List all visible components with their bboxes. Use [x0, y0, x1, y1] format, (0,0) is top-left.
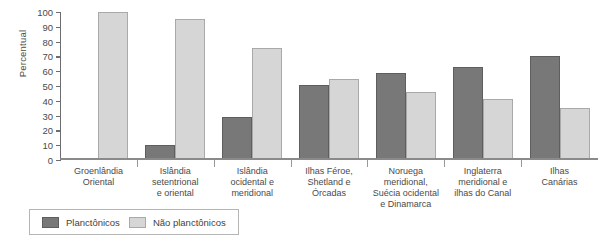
category-label-line: ilhas do Canal — [446, 188, 519, 199]
y-tick-label: 30 — [42, 110, 53, 121]
category-label: Noruegameridional,Suécia ocidentale Dina… — [367, 166, 444, 210]
category-label-line: setentrional — [139, 177, 212, 188]
y-tick-mark — [56, 160, 61, 161]
plot-area: 0102030405060708090100 — [60, 12, 598, 160]
y-tick-label: 20 — [42, 125, 53, 136]
bar-planctonicos — [453, 67, 483, 160]
category-label-line: meridional — [216, 188, 289, 199]
category-label-line: meridional, — [369, 177, 442, 188]
category-label: Islândiasetentrionale oriental — [137, 166, 214, 210]
category-label-line: ocidental e — [216, 177, 289, 188]
category-label-line: Canárias — [523, 177, 596, 188]
y-tick-label: 80 — [42, 36, 53, 47]
category-label-line: Noruega — [369, 166, 442, 177]
category-label-line: Ilhas Féroe, — [293, 166, 366, 177]
category-label: IlhasCanárias — [521, 166, 598, 210]
bar-group — [367, 12, 444, 160]
legend-swatch-icon — [129, 217, 146, 228]
bar-nao-planctonicos — [98, 12, 128, 160]
bar-group — [291, 12, 368, 160]
category-label-line: e oriental — [139, 188, 212, 199]
y-tick-label: 60 — [42, 66, 53, 77]
bar-nao-planctonicos — [252, 48, 282, 160]
legend-item: Não planctônicos — [129, 217, 226, 228]
category-label: Inglaterrameridional eilhas do Canal — [444, 166, 521, 210]
y-tick-label: 40 — [42, 95, 53, 106]
category-label: Ilhas Féroe,Shetland eÓrcadas — [291, 166, 368, 210]
category-label-line: Islândia — [216, 166, 289, 177]
legend-swatch-icon — [42, 217, 59, 228]
bar-group — [137, 12, 214, 160]
bar-planctonicos — [376, 73, 406, 160]
category-label-line: Islândia — [139, 166, 212, 177]
legend-label: Não planctônicos — [153, 217, 226, 228]
legend-item: Planctônicos — [42, 217, 120, 228]
category-label-line: Ilhas — [523, 166, 596, 177]
chart-legend: PlanctônicosNão planctônicos — [29, 209, 239, 235]
bar-groups — [60, 12, 598, 160]
category-label: Islândiaocidental emeridional — [214, 166, 291, 210]
bar-nao-planctonicos — [483, 99, 513, 160]
bar-group — [214, 12, 291, 160]
x-axis-line — [60, 158, 598, 160]
category-label-line: Órcadas — [293, 188, 366, 199]
category-label-line: Shetland e — [293, 177, 366, 188]
category-label-line: Oriental — [62, 177, 135, 188]
y-tick-label: 90 — [42, 21, 53, 32]
bar-nao-planctonicos — [406, 92, 436, 160]
category-label-line: e Dinamarca — [369, 199, 442, 210]
bar-nao-planctonicos — [175, 19, 205, 160]
bar-group — [521, 12, 598, 160]
bar-chart: Percentual 0102030405060708090100 Groenl… — [0, 0, 614, 246]
bar-group — [444, 12, 521, 160]
category-label-line: Inglaterra — [446, 166, 519, 177]
category-label-line: Groenlândia — [62, 166, 135, 177]
y-tick-label: 50 — [42, 81, 53, 92]
y-axis-title: Percentual — [17, 0, 28, 109]
bar-nao-planctonicos — [329, 79, 359, 160]
bar-nao-planctonicos — [560, 108, 590, 160]
y-tick-label: 0 — [48, 155, 53, 166]
bar-group — [60, 12, 137, 160]
y-tick-label: 100 — [37, 7, 53, 18]
bar-planctonicos — [299, 85, 329, 160]
y-tick-label: 10 — [42, 140, 53, 151]
category-label-line: Suécia ocidental — [369, 188, 442, 199]
legend-label: Planctônicos — [66, 217, 120, 228]
bar-planctonicos — [222, 117, 252, 160]
y-tick-label: 70 — [42, 51, 53, 62]
category-label: GroenlândiaOriental — [60, 166, 137, 210]
bar-planctonicos — [530, 56, 560, 160]
x-axis-category-labels: GroenlândiaOrientalIslândiasetentrionale… — [60, 166, 598, 210]
category-label-line: meridional e — [446, 177, 519, 188]
